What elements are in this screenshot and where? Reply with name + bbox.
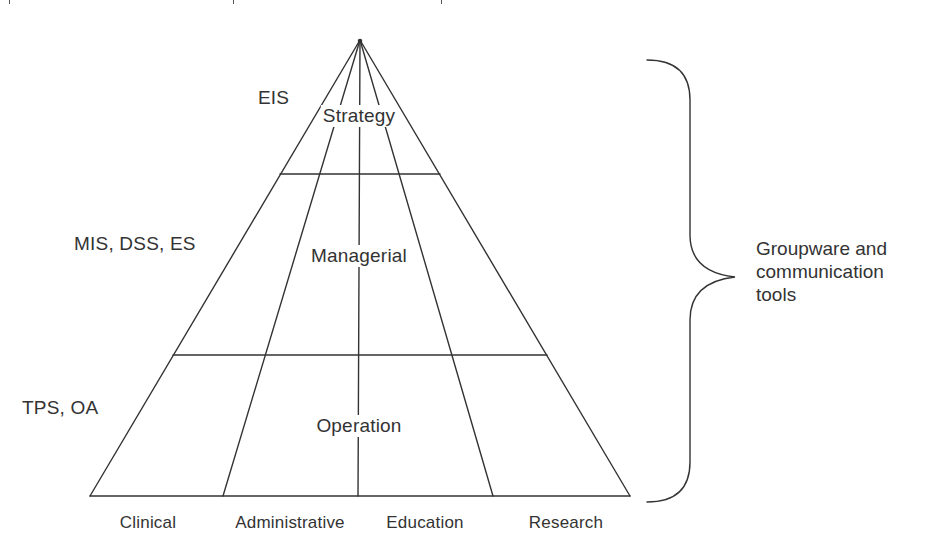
systems-label-eis: EIS (258, 87, 289, 109)
systems-label-mis-dss-es: MIS, DSS, ES (74, 233, 196, 255)
systems-label-tps-oa: TPS, OA (22, 397, 98, 419)
curly-brace (647, 60, 735, 502)
brace-annotation: Groupware and communication tools (756, 237, 887, 306)
level-label-managerial: Managerial (309, 245, 409, 267)
level-label-operation: Operation (314, 415, 403, 437)
apex-point (358, 39, 361, 42)
column-label-clinical: Clinical (120, 512, 176, 534)
brace-annotation-line-2: communication (756, 260, 887, 283)
column-label-education: Education (386, 512, 463, 534)
column-label-research: Research (529, 512, 603, 534)
brace-annotation-line-1: Groupware and (756, 237, 887, 260)
level-label-strategy: Strategy (321, 105, 397, 127)
column-label-administrative: Administrative (235, 512, 345, 534)
brace-annotation-line-3: tools (756, 283, 887, 306)
